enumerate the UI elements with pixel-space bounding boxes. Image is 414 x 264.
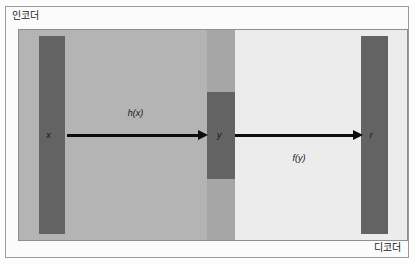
encoder-function-label: h(x) [128,108,144,118]
input-label-x: x [46,130,51,140]
input-bar-x [39,36,65,234]
latent-label-y: y [217,130,222,140]
autoencoder-diagram: 인코더 디코더 x y r h(x) f(y) [0,0,414,264]
decoder-arrow-shaft [235,134,355,137]
encoder-arrow-head [198,130,208,140]
figure-caption-band: 인코더 디코더 x y r h(x) f(y) [6,7,408,257]
decoder-arrow-head [353,130,363,140]
diagram-panel: x y r h(x) f(y) [18,29,408,241]
decoder-caption: 디코더 [374,242,401,254]
decoder-function-label: f(y) [293,153,306,163]
encoder-arrow [67,130,208,141]
output-label-r: r [370,130,373,140]
decoder-arrow [235,130,363,141]
encoder-arrow-shaft [67,134,200,137]
encoder-caption: 인코더 [12,10,39,22]
output-bar-r [361,36,388,234]
